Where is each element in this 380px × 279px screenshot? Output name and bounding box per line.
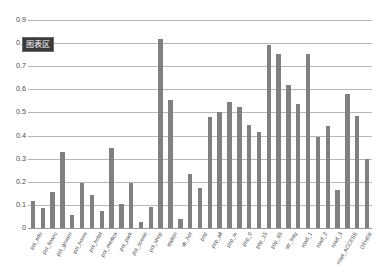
y-tick-label: 0.6: [2, 85, 26, 92]
bar: [158, 39, 162, 229]
bar: [345, 94, 349, 228]
bar: [335, 190, 339, 228]
x-tick-label: pop_all: [209, 231, 223, 249]
bar: [100, 211, 104, 228]
bar: [70, 215, 74, 228]
bar: [41, 208, 45, 228]
x-tick-label: sb_hot: [180, 231, 193, 248]
bar: [188, 174, 192, 228]
bar: [129, 183, 133, 228]
bar: [149, 207, 153, 228]
bar: [50, 192, 54, 228]
x-tick-label: str_fmly: [283, 231, 298, 250]
x-tick-label: poi_home: [72, 231, 89, 255]
x-tick-label: poi_park: [118, 231, 134, 252]
y-tick-label: 0.4: [2, 132, 26, 139]
bar: [306, 54, 310, 228]
bar: [257, 132, 261, 228]
x-tick-label: pop: [199, 231, 209, 242]
y-tick-label: 0: [2, 224, 26, 231]
y-tick-label: 0.5: [2, 108, 26, 115]
bar: [286, 85, 290, 228]
bar: [365, 159, 369, 228]
x-axis-labels: poi_edupoi_financpoi_governpoi_homepoi_h…: [28, 229, 372, 279]
x-tick-label: poi_scenic: [130, 231, 148, 256]
bar: [217, 112, 221, 228]
bars-layer: [28, 20, 372, 228]
x-tick-label: pop_15: [254, 231, 268, 250]
bar: [296, 104, 300, 228]
x-tick-label: poi_edu: [29, 231, 44, 251]
bar: [31, 201, 35, 228]
bar: [198, 188, 202, 228]
bar: [247, 125, 251, 228]
chart-area-badge: 图表区: [22, 37, 54, 52]
chart-container: 00.10.20.30.40.50.60.70.80.9 poi_edupoi_…: [0, 0, 380, 279]
x-tick-label: poi_shop: [147, 231, 163, 253]
bar: [60, 152, 64, 228]
x-tick-label: station: [165, 231, 178, 248]
y-tick-label: 0.2: [2, 178, 26, 185]
y-tick-label: 0.1: [2, 201, 26, 208]
bar: [80, 183, 84, 228]
bar: [237, 107, 241, 228]
bar: [326, 126, 330, 228]
x-tick-label: OTHER: [358, 231, 373, 250]
y-tick-label: 0.7: [2, 62, 26, 69]
bar: [90, 195, 94, 229]
bar: [267, 45, 271, 228]
bar: [178, 219, 182, 228]
x-tick-label: road_1: [299, 231, 313, 249]
x-tick-label: road_3: [329, 231, 343, 249]
y-tick-label: 0.3: [2, 155, 26, 162]
x-tick-label: pop_65: [269, 231, 283, 250]
x-tick-label: pop_0: [240, 231, 253, 247]
x-tick-label: poi_govern: [55, 231, 74, 257]
y-tick-label: 0.9: [2, 16, 26, 23]
bar: [355, 116, 359, 228]
bar: [227, 102, 231, 228]
bar: [316, 137, 320, 228]
bar: [119, 204, 123, 228]
x-tick-label: road_2: [314, 231, 328, 249]
x-tick-label: pop_m: [225, 231, 238, 248]
bar: [139, 222, 143, 228]
bar: [109, 148, 113, 228]
bar: [168, 100, 172, 228]
bar: [208, 117, 212, 228]
plot-area: [28, 20, 372, 228]
bar: [276, 54, 280, 228]
